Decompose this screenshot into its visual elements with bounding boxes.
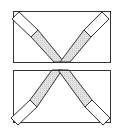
crossed-bars-diagram [0, 0, 121, 131]
bottom-panel [11, 70, 111, 125]
top-panel [12, 12, 111, 63]
